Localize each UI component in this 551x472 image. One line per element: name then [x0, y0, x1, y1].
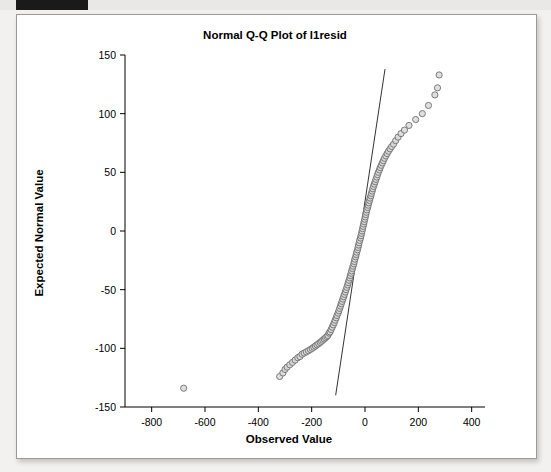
chart-card: Normal Q-Q Plot of l1resid Expected Norm… — [16, 14, 537, 459]
data-point — [436, 72, 442, 78]
data-points — [181, 72, 443, 391]
y-tick-label: 150 — [98, 49, 116, 61]
x-tick-label: 0 — [362, 416, 368, 428]
data-point — [406, 122, 412, 128]
x-tick-label: 200 — [410, 416, 428, 428]
data-point — [413, 116, 419, 122]
x-tick-label: -400 — [248, 416, 269, 428]
data-point — [434, 85, 440, 91]
y-tick-label: 50 — [104, 166, 116, 178]
qq-plot: Normal Q-Q Plot of l1resid Expected Norm… — [17, 15, 534, 456]
data-point — [419, 111, 425, 117]
data-point — [181, 385, 187, 391]
y-tick-label: 0 — [110, 225, 116, 237]
x-tick-label: -200 — [301, 416, 322, 428]
x-tick-label: -800 — [141, 416, 162, 428]
data-point — [432, 92, 438, 98]
top-black-bar — [16, 0, 88, 10]
y-tick-label: 100 — [98, 108, 116, 120]
x-axis-label: Observed Value — [246, 433, 332, 445]
data-point — [425, 102, 431, 108]
y-axis-ticks: -150-100-50050100150 — [95, 49, 125, 413]
x-tick-label: 400 — [463, 416, 481, 428]
y-axis-label: Expected Normal Value — [33, 169, 45, 296]
x-axis-ticks: -800-600-400-2000200400 — [141, 407, 480, 428]
x-tick-label: -600 — [194, 416, 215, 428]
y-tick-label: -100 — [95, 342, 116, 354]
chart-title: Normal Q-Q Plot of l1resid — [203, 29, 347, 41]
y-tick-label: -50 — [101, 284, 116, 296]
screenshot-root: Normal Q-Q Plot of l1resid Expected Norm… — [0, 0, 551, 472]
y-tick-label: -150 — [95, 401, 116, 413]
